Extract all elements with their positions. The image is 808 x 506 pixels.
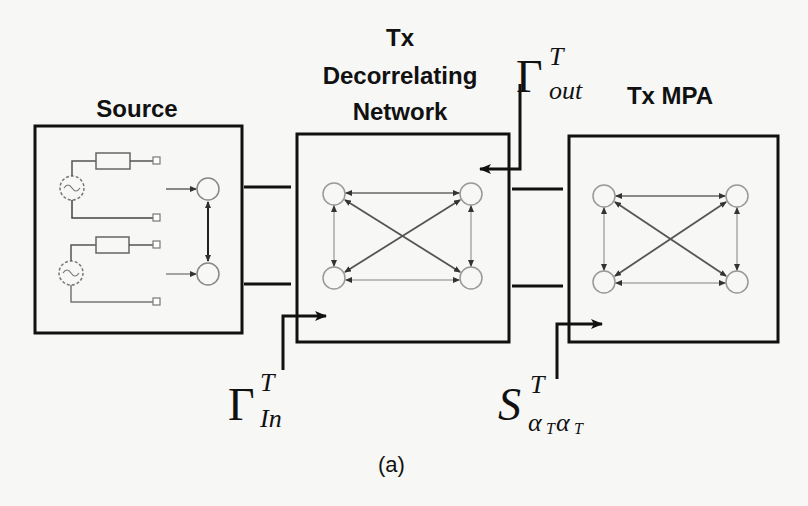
port-icon (153, 241, 160, 248)
decorrelating-block (297, 134, 509, 342)
ac-source-icon-1 (60, 176, 84, 200)
gamma-out-arrow (480, 84, 520, 169)
mpa-block (569, 136, 778, 342)
node-circle (593, 185, 615, 207)
port-icon (153, 157, 160, 164)
port-icon (153, 214, 160, 221)
node-circle (460, 267, 482, 289)
source-block (35, 126, 242, 333)
s-param-arrow (557, 324, 602, 379)
ac-source-icon-2 (59, 261, 83, 285)
node-circle (593, 271, 615, 293)
node-circle (726, 271, 748, 293)
node-circle (323, 183, 345, 205)
node-circle (460, 183, 482, 205)
node-circle (197, 263, 219, 285)
node-circle (323, 267, 345, 289)
resistor-icon-2 (96, 237, 129, 253)
node-circle (726, 185, 748, 207)
diagram-canvas (0, 0, 808, 506)
resistor-icon-1 (96, 153, 130, 169)
node-circle (197, 178, 219, 200)
port-icon (153, 298, 160, 305)
